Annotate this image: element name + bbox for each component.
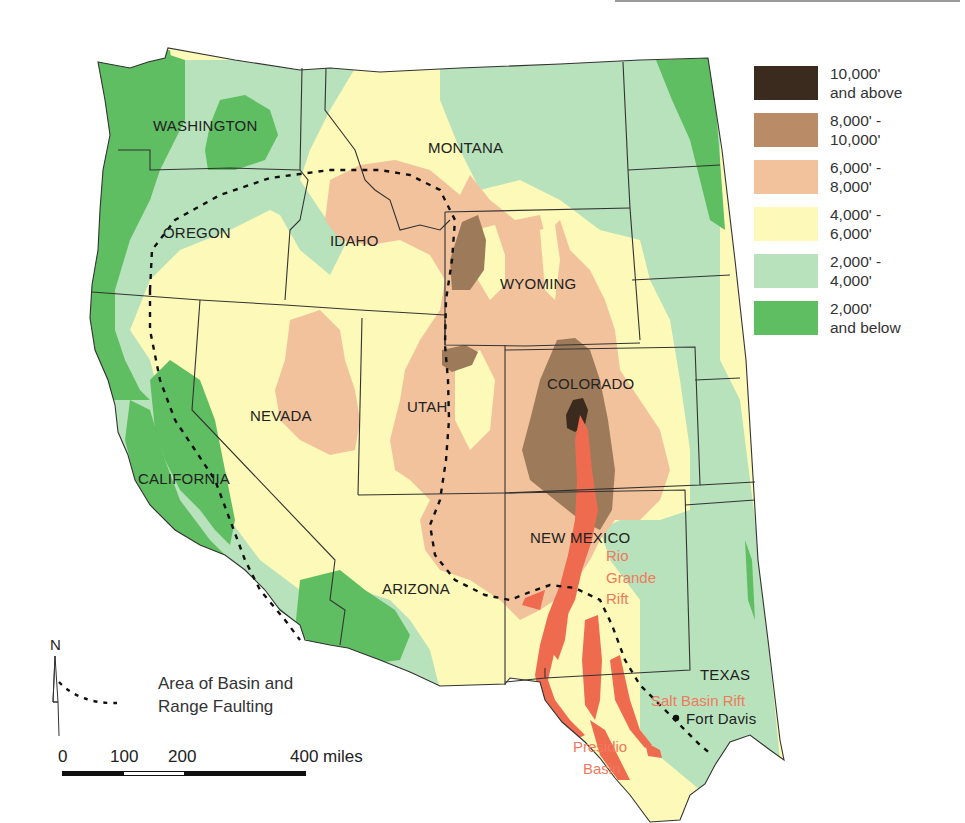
state-label-california: CALIFORNIA	[138, 470, 230, 487]
scale-bar: 0 100 200 400 miles	[58, 747, 378, 779]
legend-label-line1: 6,000' -	[830, 158, 881, 177]
legend-row-2000-below: 2,000' and below	[754, 301, 954, 348]
rio-grande-rift-label-2: Grande	[606, 569, 656, 586]
legend-swatch	[754, 66, 818, 100]
scale-label-200: 200	[168, 747, 196, 767]
legend-label-line2: 4,000'	[830, 271, 881, 290]
presidio-basin-label-1: Presidio	[573, 738, 627, 755]
legend-label-line2: and above	[830, 83, 902, 102]
rio-grande-rift-label-1: Rio	[606, 547, 629, 564]
scale-segment-black-2	[184, 771, 306, 776]
legend-label: 6,000' - 8,000'	[830, 158, 881, 196]
scale-label-0: 0	[58, 747, 67, 767]
presidio-basin-label-2: Basin	[583, 760, 621, 777]
state-label-oregon: OREGON	[163, 224, 231, 241]
legend-label: 8,000' - 10,000'	[830, 111, 881, 149]
legend-label: 2,000' - 4,000'	[830, 252, 881, 290]
legend-row-2000-4000: 2,000' - 4,000'	[754, 254, 954, 301]
legend-swatch	[754, 160, 818, 194]
legend-label-line2: 10,000'	[830, 130, 881, 149]
scale-segment-black-1	[62, 771, 124, 776]
legend-row-6000-8000: 6,000' - 8,000'	[754, 160, 954, 207]
legend-label-line2: and below	[830, 318, 901, 337]
fort-davis-label: Fort Davis	[686, 710, 756, 727]
scale-segment-white	[124, 771, 184, 776]
salt-basin-rift-label: Salt Basin Rift	[651, 692, 746, 709]
legend-label-line1: 10,000'	[830, 64, 902, 83]
state-label-washington: WASHINGTON	[153, 117, 258, 134]
fault-legend: Area of Basin and Range Faulting	[55, 672, 355, 722]
north-label: N	[50, 636, 61, 653]
legend-label: 2,000' and below	[830, 299, 901, 337]
fault-legend-label: Area of Basin and Range Faulting	[158, 672, 293, 718]
fault-legend-line1: Area of Basin and	[158, 672, 293, 695]
legend-label-line2: 8,000'	[830, 177, 881, 196]
state-label-nevada: NEVADA	[250, 407, 312, 424]
legend-label-line1: 2,000'	[830, 299, 901, 318]
rio-grande-rift-label-3: Rift	[606, 590, 629, 607]
fault-legend-line2: Range Faulting	[158, 695, 293, 718]
state-label-idaho: IDAHO	[330, 232, 379, 249]
state-label-colorado: COLORADO	[547, 375, 634, 392]
dashed-line-icon	[55, 678, 125, 718]
scale-label-100: 100	[110, 747, 138, 767]
state-label-new-mexico: NEW MEXICO	[530, 529, 630, 546]
legend-swatch	[754, 254, 818, 288]
legend-label-line1: 8,000' -	[830, 111, 881, 130]
legend-swatch	[754, 207, 818, 241]
scale-label-400: 400 miles	[290, 747, 363, 767]
legend-label-line2: 6,000'	[830, 224, 881, 243]
state-label-utah: UTAH	[407, 398, 448, 415]
legend-label: 4,000' - 6,000'	[830, 205, 881, 243]
state-label-wyoming: WYOMING	[500, 275, 576, 292]
legend-row-8000-10000: 8,000' - 10,000'	[754, 113, 954, 160]
legend-swatch	[754, 113, 818, 147]
legend-row-4000-6000: 4,000' - 6,000'	[754, 207, 954, 254]
state-label-montana: MONTANA	[428, 139, 503, 156]
fort-davis-marker	[673, 715, 679, 721]
legend-label: 10,000' and above	[830, 64, 902, 102]
legend-label-line1: 2,000' -	[830, 252, 881, 271]
legend-row-10000-above: 10,000' and above	[754, 66, 954, 113]
legend-label-line1: 4,000' -	[830, 205, 881, 224]
elevation-legend: 10,000' and above 8,000' - 10,000' 6,000…	[754, 66, 954, 348]
state-label-texas: TEXAS	[700, 666, 750, 683]
state-label-arizona: ARIZONA	[382, 580, 450, 597]
legend-swatch	[754, 301, 818, 335]
